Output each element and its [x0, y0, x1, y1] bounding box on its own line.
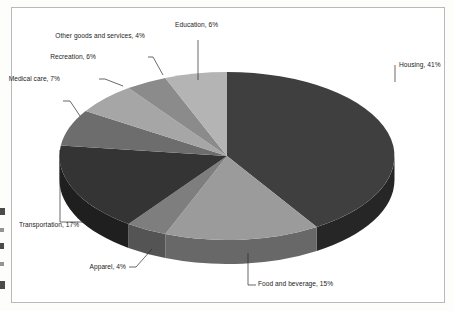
- slice-label-education: Education, 6%: [175, 22, 218, 29]
- slice-label-recreation: Recreation, 6%: [19, 54, 96, 61]
- slice-label-other-goods-and-services: Other goods and services, 4%: [37, 33, 145, 40]
- pie-chart: Housing, 41% Education, 6% Other goods a…: [0, 0, 453, 311]
- leader-line-other-goods-and-services: [148, 57, 163, 75]
- slice-label-medical-care: Medical care, 7%: [0, 76, 60, 83]
- slice-label-transportation: Transportation, 17%: [19, 222, 79, 229]
- slice-label-apparel: Apparel, 4%: [62, 264, 126, 271]
- leader-line-recreation: [99, 79, 123, 86]
- leader-line-medical-care: [63, 101, 80, 116]
- chart-page: Housing, 41% Education, 6% Other goods a…: [0, 0, 453, 311]
- slice-label-food-and-beverage: Food and beverage, 15%: [258, 281, 333, 288]
- slice-label-housing: Housing, 41%: [399, 62, 441, 69]
- pie-top-faces: [59, 72, 394, 240]
